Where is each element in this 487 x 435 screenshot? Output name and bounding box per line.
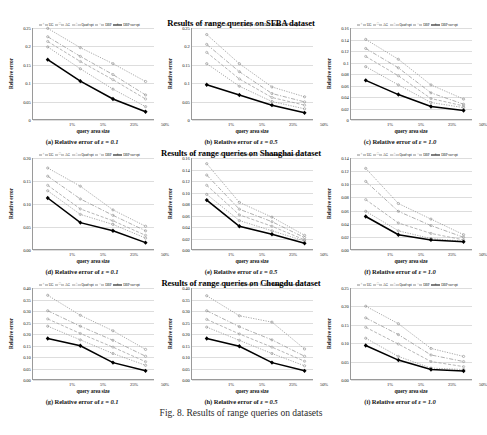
legend-entry-Quad-opt[interactable]: △ Quad-opt [231, 23, 253, 27]
legend-entry-UG[interactable]: × UG [39, 153, 53, 157]
legend-entry-Quad-opt[interactable]: △ Quad-opt [72, 153, 94, 157]
legend-entry-DBP[interactable]: ○ DBP [254, 153, 270, 157]
data-marker [365, 337, 367, 339]
series-line-DBP-our-opt [48, 339, 146, 371]
legend-entry-DBP[interactable]: ○ DBP [254, 23, 270, 27]
legend-label-Quad-opt: Quad-opt [399, 153, 411, 157]
legend-entry-Quad-opt[interactable]: △ Quad-opt [390, 23, 412, 27]
y-tick-label: 0.06 [341, 83, 348, 88]
legend-entry-DBP-our-opt[interactable]: ⬩ DBP-our-opt [431, 283, 457, 287]
legend-entry-UG[interactable]: × UG [198, 283, 212, 287]
x-tick-label: 25% [130, 252, 138, 257]
x-tick-label: 1% [387, 252, 393, 257]
y-tick-label: 0.12 [341, 49, 348, 54]
legend-entry-UG[interactable]: × UG [357, 283, 371, 287]
series-line-AG [48, 311, 146, 357]
x-axis-ticks: 1%5%25%50% [191, 120, 313, 129]
legend-entry-AG[interactable]: □ AG [55, 283, 69, 287]
legend-entry-DBP[interactable]: ○ DBP [413, 23, 429, 27]
legend-entry-AG[interactable]: □ AG [214, 23, 228, 27]
plot-wrapper: Relative error 00.050.10.150.20.25 × UG … [6, 28, 158, 120]
legend-label-DBP-our-opt: DBP-our-opt [441, 23, 458, 27]
data-marker [303, 234, 305, 236]
data-marker [205, 83, 209, 87]
data-marker [47, 167, 49, 169]
legend-entry-DBP-our-opt[interactable]: ⬩ DBP-our-opt [431, 23, 457, 27]
chart-panel-h: Relative error 0.000.050.100.150.200.250… [165, 288, 317, 406]
y-axis-label: Relative error [165, 288, 174, 380]
x-tick-label: 1% [69, 252, 75, 257]
data-marker [112, 330, 114, 332]
legend-key-AG: □ [373, 154, 382, 157]
legend-entry-UG[interactable]: × UG [357, 23, 371, 27]
legend-entry-UG[interactable]: × UG [198, 23, 212, 27]
data-marker [365, 210, 367, 212]
legend-entry-DBP-our-opt[interactable]: ⬩ DBP-our-opt [272, 153, 298, 157]
legend-entry-Quad-opt[interactable]: △ Quad-opt [390, 153, 412, 157]
y-tick-label: 0.40 [182, 286, 189, 291]
legend-entry-DBP-our-opt[interactable]: ⬩ DBP-our-opt [272, 283, 298, 287]
data-marker [430, 354, 432, 356]
legend-entry-AG[interactable]: □ AG [55, 23, 69, 27]
legend-entry-AG[interactable]: □ AG [373, 283, 387, 287]
legend-entry-UG[interactable]: × UG [39, 283, 53, 287]
legend-entry-DBP-our-opt[interactable]: ⬩ DBP-our-opt [113, 283, 139, 287]
legend-key-DBP-our-opt: ⬩ [113, 24, 122, 27]
legend-entry-AG[interactable]: □ AG [214, 283, 228, 287]
y-tick-label: 0 [28, 118, 30, 123]
y-tick-label: 0.05 [23, 225, 30, 230]
legend-entry-Quad-opt[interactable]: △ Quad-opt [231, 283, 253, 287]
legend-entry-AG[interactable]: □ AG [373, 23, 387, 27]
legend-entry-DBP[interactable]: ○ DBP [413, 153, 429, 157]
legend-entry-Quad-opt[interactable]: △ Quad-opt [231, 153, 253, 157]
data-marker [365, 180, 367, 182]
y-tick-label: 0.40 [23, 286, 30, 291]
legend-key-DBP-our-opt: ⬩ [272, 24, 281, 27]
y-tick-label: 0.25 [182, 26, 189, 31]
legend-entry-DBP-our-opt[interactable]: ⬩ DBP-our-opt [272, 23, 298, 27]
series-line-Quad-opt [48, 185, 146, 235]
data-marker [238, 63, 240, 65]
data-marker [112, 63, 114, 65]
data-marker [206, 193, 208, 195]
legend-entry-DBP[interactable]: ○ DBP [95, 153, 111, 157]
legend-entry-AG[interactable]: □ AG [214, 153, 228, 157]
series-line-AG [207, 311, 305, 357]
legend-entry-DBP[interactable]: ○ DBP [413, 283, 429, 287]
legend-entry-DBP-our-opt[interactable]: ⬩ DBP-our-opt [431, 153, 457, 157]
x-tick-label: 25% [289, 252, 297, 257]
x-tick-label: 5% [100, 122, 106, 127]
legend-entry-AG[interactable]: □ AG [373, 153, 387, 157]
x-tick-label: 25% [448, 252, 456, 257]
legend-entry-DBP[interactable]: ○ DBP [95, 23, 111, 27]
legend-entry-Quad-opt[interactable]: △ Quad-opt [390, 283, 412, 287]
legend-entry-UG[interactable]: × UG [357, 153, 371, 157]
legend-key-UG: × [357, 154, 366, 157]
legend-entry-UG[interactable]: × UG [39, 23, 53, 27]
legend-label-AG: AG [383, 153, 388, 157]
data-marker [79, 55, 81, 57]
panel-row-1: Relative error 0.000.050.100.150.20 × UG… [0, 158, 482, 276]
y-tick-label: 0.12 [341, 169, 348, 174]
legend-label-UG: UG [208, 153, 213, 157]
legend-entry-AG[interactable]: □ AG [55, 153, 69, 157]
legend-label-DBP: DBP [105, 283, 111, 287]
legend-label-DBP-our-opt: DBP-our-opt [282, 283, 299, 287]
x-axis-ticks: 1%5%25%50% [350, 380, 472, 389]
series-line-AG [366, 318, 464, 362]
legend-entry-DBP[interactable]: ○ DBP [254, 283, 270, 287]
legend-entry-DBP-our-opt[interactable]: ⬩ DBP-our-opt [113, 153, 139, 157]
panel-caption-d: (d) Relative error of ε = 0.1 [6, 268, 158, 275]
legend-entry-Quad-opt[interactable]: △ Quad-opt [72, 23, 94, 27]
x-axis-ticks: 1%5%25%50% [32, 250, 154, 259]
legend-entry-DBP-our-opt[interactable]: ⬩ DBP-our-opt [113, 23, 139, 27]
y-tick-label: 0.14 [182, 167, 189, 172]
plot-area: × UG □ AG △ Quad-opt ○ DBP [350, 158, 472, 250]
x-axis-ticks: 1%5%25%50% [350, 250, 472, 259]
legend-entry-Quad-opt[interactable]: △ Quad-opt [72, 283, 94, 287]
x-axis-ticks: 1%5%25%50% [191, 250, 313, 259]
legend-entry-DBP[interactable]: ○ DBP [95, 283, 111, 287]
legend-entry-UG[interactable]: × UG [198, 153, 212, 157]
data-marker [144, 355, 146, 357]
y-axis-label: Relative error [324, 158, 333, 250]
